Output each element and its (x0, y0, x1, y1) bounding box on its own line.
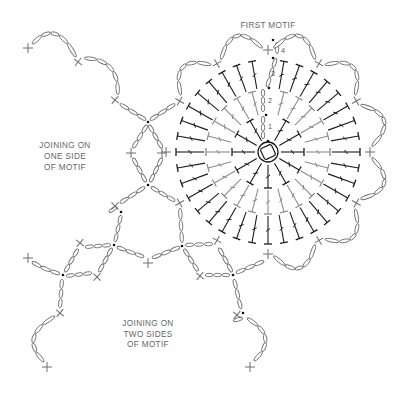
chain-stitch-icon (185, 243, 194, 247)
label-line: ONE SIDE (44, 152, 86, 161)
chain-stitch-icon (218, 247, 225, 256)
single-crochet-icon (23, 253, 33, 263)
chain-stitch-icon (354, 209, 360, 224)
round-2-label: 2 (268, 96, 272, 105)
double-crochet-icon (186, 103, 212, 120)
chain-stitch-icon (72, 248, 79, 257)
single-crochet-icon (126, 148, 136, 158)
chain-stitch-icon (302, 258, 311, 268)
chain-stitch-icon (233, 316, 244, 322)
chain-stitch-icon (339, 238, 350, 243)
double-crochet-icon (278, 91, 288, 115)
chain-stitch-icon (360, 193, 375, 201)
double-crochet-icon (207, 162, 231, 172)
scallop-chain (360, 103, 386, 147)
double-crochet-icon (305, 132, 329, 142)
crochet-diagram-canvas: FIRST MOTIF JOINING ON ONE SIDE OF MOTIF… (0, 0, 412, 394)
chain-stitch-icon (309, 45, 317, 60)
joining-one-side-label: JOINING ON ONE SIDE OF MOTIF (39, 141, 90, 172)
chain-stitch-icon (117, 245, 127, 251)
chain-stitch-icon (137, 113, 147, 121)
double-crochet-icon (300, 207, 317, 233)
chain-stitch-icon (94, 244, 103, 248)
double-crochet-icon (300, 70, 317, 96)
double-crochet-icon (328, 174, 356, 187)
chain-stitch-icon (261, 97, 264, 104)
double-crochet-icon (264, 165, 272, 188)
chain-stitch-icon (34, 324, 44, 335)
chain-stitch-icon (50, 31, 59, 37)
double-crochet-icon (328, 117, 356, 130)
double-crochet-icon (221, 105, 241, 125)
double-crochet-icon (248, 61, 257, 89)
label-line: JOINING ON (122, 319, 173, 328)
chain-stitch-icon (58, 298, 62, 307)
chain-stitch-icon (31, 342, 37, 352)
double-crochet-icon (186, 184, 212, 201)
chain-stitch-icon (166, 103, 176, 111)
double-crochet-icon (176, 148, 204, 156)
chain-stitch-icon (245, 264, 255, 271)
single-crochet-icon (90, 270, 104, 284)
chain-stitch-icon (132, 157, 139, 166)
scallop-chain (325, 61, 360, 96)
chain-stitch-icon (177, 70, 182, 81)
chain-stitch-icon (59, 289, 63, 298)
chain-stitch-icon (381, 179, 386, 188)
scallop-chain (360, 157, 386, 201)
chain-stitch-icon (225, 36, 234, 46)
chain-stitch-icon (136, 186, 146, 194)
chain-stitch-icon (42, 315, 56, 326)
joining-chain (178, 208, 183, 243)
chain-stitch-icon (325, 61, 340, 67)
slip-stitch-dot-icon (268, 87, 271, 90)
double-crochet-icon (331, 163, 359, 172)
chain-stitch-icon (119, 103, 129, 111)
double-crochet-icon (219, 70, 236, 96)
chain-stitch-icon (265, 77, 271, 87)
chain-stitch-icon (140, 173, 147, 182)
double-crochet-icon (247, 163, 262, 185)
round-2-start-chain (261, 89, 264, 112)
joining-chain (185, 242, 213, 246)
chain-stitch-icon (112, 71, 119, 82)
chain-stitch-icon (50, 269, 60, 275)
double-crochet-icon (287, 96, 302, 119)
single-crochet-icon (71, 55, 85, 69)
chain-stitch-icon (263, 334, 268, 343)
scallop-chain (325, 209, 360, 244)
double-crochet-icon (290, 212, 303, 240)
round-2-stitches (206, 91, 330, 214)
chain-stitch-icon (257, 325, 266, 335)
label-line: OF MOTIF (44, 163, 86, 172)
chain-stitch-icon (187, 256, 194, 265)
chain-stitch-icon (235, 289, 241, 299)
single-crochet-icon (73, 236, 87, 250)
single-crochet-icon (263, 249, 273, 259)
chain-stitch-icon (380, 125, 387, 136)
chain-stitch-icon (325, 238, 340, 244)
joining-chain (236, 260, 265, 275)
chain-stitch-icon (180, 231, 184, 242)
double-crochet-icon (219, 207, 236, 233)
joining-chain (149, 157, 164, 182)
chain-stitch-icon (166, 195, 175, 202)
round-3-label: 3 (271, 69, 275, 78)
chain-stitch-icon (132, 140, 139, 149)
double-crochet-icon (235, 131, 257, 146)
joining-two-sides-label: JOINING ON TWO SIDES OF MOTIF (122, 319, 173, 349)
double-crochet-icon (331, 132, 359, 141)
double-crochet-icon (290, 64, 303, 92)
chain-stitch-icon (354, 223, 359, 234)
scallop-chain (273, 244, 317, 270)
first-motif-label: FIRST MOTIF (240, 21, 295, 30)
chain-stitch-icon (254, 260, 264, 267)
slip-stitch-dot-icon (147, 184, 150, 187)
double-crochet-icon (264, 190, 272, 214)
chain-stitch-icon (186, 61, 197, 66)
double-crochet-icon (248, 189, 258, 213)
chain-stitch-icon (117, 215, 122, 224)
chain-stitch-icon (261, 342, 267, 352)
chain-stitch-icon (128, 108, 138, 116)
chain-stitch-icon (295, 265, 304, 270)
